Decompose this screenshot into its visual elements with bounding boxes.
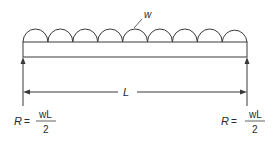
left-reaction-arrow [21,57,26,106]
svg-text:R: R [14,115,22,127]
svg-text:=: = [231,116,237,127]
right-reaction-formula: R = wL 2 [221,109,265,135]
svg-text:wL: wL [248,109,262,120]
svg-text:2: 2 [43,124,49,135]
uniform-load-arcs [23,29,247,42]
left-reaction-formula: R = wL 2 [14,109,56,135]
svg-text:=: = [24,116,30,127]
span-dimension [23,90,247,95]
right-reaction-arrow [245,57,250,106]
svg-text:2: 2 [252,124,258,135]
beam-diagram: w L R = wL 2 R = wL 2 [0,0,275,142]
svg-text:wL: wL [38,109,52,120]
load-leader-line [134,19,142,28]
beam [23,42,247,57]
load-label: w [144,9,152,20]
span-label: L [123,86,129,98]
svg-text:R: R [221,115,229,127]
